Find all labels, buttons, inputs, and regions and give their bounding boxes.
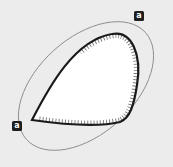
diagram-svg: [0, 0, 173, 167]
label-a-upper-right: a: [134, 11, 144, 21]
diagram-canvas: a a: [0, 0, 173, 167]
label-a-lower-left: a: [12, 121, 22, 131]
